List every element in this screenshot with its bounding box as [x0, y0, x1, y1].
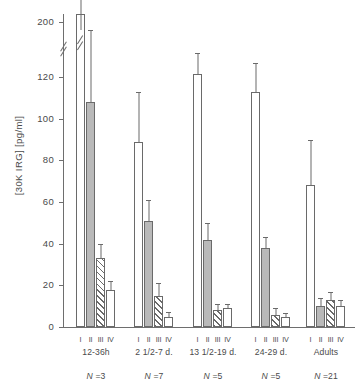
x-axis-line	[63, 327, 355, 328]
bar-tick-label: II	[316, 335, 325, 344]
bar-i	[251, 92, 260, 327]
error-bar-cap	[205, 223, 210, 224]
bar-rect	[76, 14, 85, 327]
bar-group	[193, 74, 232, 327]
bar-rect	[213, 310, 222, 327]
bar-ii	[203, 240, 212, 328]
bar-iii	[326, 300, 335, 327]
bar-rect	[86, 102, 95, 327]
bar-tick-label: III	[213, 335, 222, 344]
error-bar-cap	[273, 308, 278, 309]
group-label: Adults	[293, 347, 359, 357]
error-bar	[80, 0, 81, 30]
bar-iii	[154, 296, 163, 327]
bar-tick-label: I	[306, 335, 315, 344]
error-bar	[207, 223, 208, 240]
bar-rect	[134, 142, 143, 327]
bar-rect	[281, 317, 290, 327]
bar-ii	[261, 248, 270, 327]
error-bar	[310, 140, 311, 186]
y-tick	[59, 202, 63, 203]
bar-rect	[306, 185, 315, 327]
bar-tick-labels: IIIIIIIV	[251, 335, 290, 344]
bar-tick-label: III	[96, 335, 105, 344]
error-bar-cap	[136, 92, 141, 93]
bar-i	[193, 74, 202, 327]
bar-rect	[164, 317, 173, 327]
y-tick-label: 60	[20, 196, 54, 207]
y-tick	[59, 119, 63, 120]
bar-break-icon	[75, 36, 86, 48]
error-bar-cap	[308, 140, 313, 141]
error-bar	[110, 281, 111, 289]
bar-tick-label: I	[134, 335, 143, 344]
bar-rect	[154, 296, 163, 327]
bar-tick-labels: IIIIIIIV	[306, 335, 345, 344]
bar-group	[76, 14, 115, 327]
bar-tick-label: IV	[336, 335, 345, 344]
bar-rect	[203, 240, 212, 328]
bar-group	[306, 185, 345, 327]
y-tick-label: 20	[20, 279, 54, 290]
error-bar-cap	[195, 53, 200, 54]
group-count-label: N =3	[63, 371, 129, 381]
error-bar	[330, 292, 331, 300]
bar-i	[134, 142, 143, 327]
bar-iii	[96, 258, 105, 327]
bar-tick-label: I	[193, 335, 202, 344]
y-axis-line	[63, 14, 64, 327]
error-bar	[148, 200, 149, 221]
bar-ii	[316, 306, 325, 327]
error-bar	[100, 244, 101, 259]
bar-tick-label: I	[76, 335, 85, 344]
bar-tick-labels: IIIIIIIV	[76, 335, 115, 344]
error-bar-cap	[263, 237, 268, 238]
bar-rect	[106, 290, 115, 328]
group-label: 12-36h	[63, 347, 129, 357]
bar-rect	[316, 306, 325, 327]
bar-iv	[336, 306, 345, 327]
bar-tick-label: II	[261, 335, 270, 344]
y-axis-break-icon	[58, 42, 70, 56]
bar-tick-label: IV	[223, 335, 232, 344]
error-bar	[320, 298, 321, 306]
bar-rect	[223, 308, 232, 327]
bar-rect	[261, 248, 270, 327]
error-bar-cap	[156, 283, 161, 284]
bar-rect	[251, 92, 260, 327]
error-bar	[138, 92, 139, 142]
bar-group	[134, 142, 173, 327]
bar-rect	[326, 300, 335, 327]
error-bar-cap	[215, 304, 220, 305]
error-bar-cap	[88, 30, 93, 31]
y-tick-label: 80	[20, 154, 54, 165]
y-tick-label: 120	[20, 71, 54, 82]
bar-iv	[106, 290, 115, 328]
bar-chart: [30K IRG] [pg/ml] 020406080100120200 III…	[0, 0, 360, 392]
error-bar	[90, 30, 91, 102]
bar-tick-label: III	[271, 335, 280, 344]
error-bar-cap	[166, 312, 171, 313]
error-bar	[265, 237, 266, 247]
y-tick-label: 0	[20, 321, 54, 332]
error-bar-cap	[318, 298, 323, 299]
group-count-label: N =5	[180, 371, 246, 381]
error-bar	[158, 283, 159, 296]
bar-iii	[271, 315, 280, 328]
bar-iv	[164, 317, 173, 327]
error-bar-cap	[328, 292, 333, 293]
bar-i	[76, 14, 85, 327]
bar-tick-label: III	[154, 335, 163, 344]
y-tick	[59, 327, 63, 328]
y-tick	[59, 160, 63, 161]
bar-tick-labels: IIIIIIIV	[134, 335, 173, 344]
y-tick	[59, 22, 63, 23]
bar-tick-labels: IIIIIIIV	[193, 335, 232, 344]
bar-iv	[281, 317, 290, 327]
bar-group	[251, 92, 290, 327]
bar-tick-label: III	[326, 335, 335, 344]
y-tick	[59, 244, 63, 245]
bar-tick-label: IV	[164, 335, 173, 344]
y-tick-label: 200	[20, 16, 54, 27]
bar-tick-label: I	[251, 335, 260, 344]
